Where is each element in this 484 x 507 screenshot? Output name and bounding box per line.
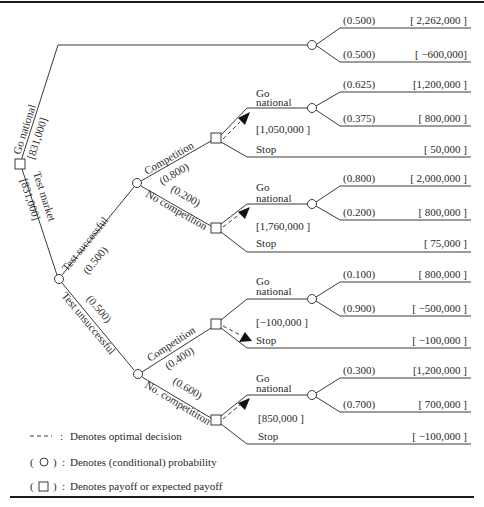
legend-paren: ( bbox=[30, 480, 34, 493]
optimal-arrow bbox=[239, 332, 252, 342]
prob-label: (0.800) bbox=[343, 172, 375, 185]
branch-test-successful: Test successful (0.500) Competition (0.8… bbox=[59, 139, 211, 277]
optimal-arrow bbox=[238, 207, 250, 219]
decision-value: [−100,000 ] bbox=[256, 316, 308, 328]
stop-label: Stop bbox=[256, 143, 277, 155]
legend-text: Denotes (conditional) probability bbox=[70, 456, 217, 469]
optimal-arrow bbox=[238, 398, 250, 410]
legend-item-optimal-decision: : Denotes optimal decision bbox=[30, 430, 182, 442]
branch-go-national: (0.500) [ 2,262,000 ] (0.500) [ −600,000… bbox=[10, 14, 471, 164]
chance-node-go-national bbox=[308, 41, 317, 50]
chance-node bbox=[308, 104, 317, 113]
payoff-label: [ 50,000 ] bbox=[424, 143, 467, 155]
stop-label: Stop bbox=[256, 237, 277, 249]
payoff-label: [ 75,000 ] bbox=[424, 237, 467, 249]
decision-value: [850,000 ] bbox=[258, 412, 304, 424]
payoff-label: [ 700,000 ] bbox=[418, 398, 467, 410]
go-label: national bbox=[256, 192, 291, 204]
stop-label: Stop bbox=[256, 334, 277, 346]
payoff-label: [ −500,000 ] bbox=[412, 302, 467, 314]
payoff-label: [ 2,000,000 ] bbox=[410, 172, 467, 184]
square-icon bbox=[39, 482, 48, 491]
payoff-label: [ 800,000 ] bbox=[418, 206, 467, 218]
legend-sep: : bbox=[62, 480, 65, 492]
decision-node bbox=[211, 415, 221, 425]
circle-icon bbox=[40, 458, 48, 466]
chance-node bbox=[308, 391, 317, 400]
branch-test-unsuccessful: Test unsuccessful (0.500) Competition (0… bbox=[59, 283, 213, 427]
legend-sep: : bbox=[60, 430, 63, 442]
legend-item-probability: ( ) : Denotes (conditional) probability bbox=[30, 456, 217, 469]
legend: : Denotes optimal decision ( ) : Denotes… bbox=[30, 430, 223, 493]
decision-value: [1,050,000 ] bbox=[256, 123, 310, 135]
payoff-label: [1,200,000 ] bbox=[413, 78, 467, 90]
decision-successful-no-competition: Go national [1,760,000 ] Stop [ 75,000 ]… bbox=[211, 172, 471, 252]
payoff-label: [ 2,262,000 ] bbox=[410, 14, 467, 26]
decision-successful-competition: Go national [1,050,000 ] Stop [ 50,000 ]… bbox=[211, 78, 471, 157]
prob-label: (0.200) bbox=[343, 206, 375, 219]
legend-text: Denotes payoff or expected payoff bbox=[70, 480, 223, 492]
legend-paren: ( bbox=[30, 456, 34, 469]
prob-label: (0.100) bbox=[343, 268, 375, 281]
decision-node bbox=[211, 133, 221, 143]
prob-label: (0.375) bbox=[343, 112, 375, 125]
legend-paren: ) bbox=[53, 456, 57, 469]
prob-label: (0.500) bbox=[343, 48, 375, 61]
decision-node-root bbox=[15, 159, 25, 169]
branch-test-market: Test market [831,000] bbox=[18, 169, 63, 284]
payoff-label: [ −600,000] bbox=[415, 48, 467, 60]
legend-sep: : bbox=[62, 456, 65, 468]
payoff-label: [ 800,000 ] bbox=[418, 268, 467, 280]
prob-label: (0.300) bbox=[343, 364, 375, 377]
payoff-label: [ −100,000 ] bbox=[412, 430, 467, 442]
chance-node-test-successful bbox=[133, 179, 142, 188]
chance-node bbox=[308, 295, 317, 304]
payoff-label: [ −100,000 ] bbox=[412, 334, 467, 346]
legend-paren: ) bbox=[53, 480, 57, 493]
decision-unsuccessful-no-competition: Go national [850,000 ] Stop [ −100,000 ]… bbox=[211, 364, 471, 444]
decision-unsuccessful-competition: Go national [−100,000 ] Stop [ −100,000 … bbox=[211, 268, 471, 348]
decision-tree-diagram: (0.500) [ 2,262,000 ] (0.500) [ −600,000… bbox=[0, 0, 484, 507]
payoff-label: [ 800,000 ] bbox=[418, 112, 467, 124]
decision-node bbox=[211, 223, 221, 233]
decision-node bbox=[211, 319, 221, 329]
go-label: national bbox=[256, 96, 291, 108]
payoff-label: [1,200,000 ] bbox=[413, 364, 467, 376]
legend-text: Denotes optimal decision bbox=[70, 430, 182, 442]
chance-node-test-unsuccessful bbox=[134, 370, 143, 379]
prob-label: (0.500) bbox=[343, 14, 375, 27]
prob-label: (0.625) bbox=[343, 78, 375, 91]
stop-label: Stop bbox=[258, 430, 279, 442]
optimal-arrow bbox=[238, 112, 250, 125]
go-label: national bbox=[256, 285, 291, 297]
chance-node bbox=[308, 200, 317, 209]
chance-node-test bbox=[55, 275, 64, 284]
go-label: national bbox=[256, 382, 291, 394]
prob-label: (0.700) bbox=[343, 398, 375, 411]
decision-value: [1,760,000 ] bbox=[256, 220, 310, 232]
legend-item-payoff: ( ) : Denotes payoff or expected payoff bbox=[30, 480, 223, 493]
prob-label: (0.900) bbox=[343, 302, 375, 315]
